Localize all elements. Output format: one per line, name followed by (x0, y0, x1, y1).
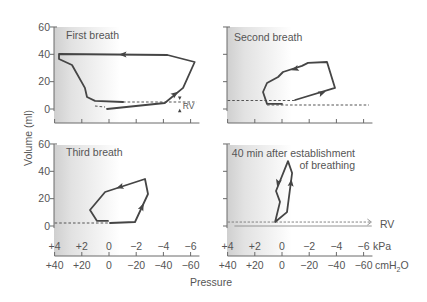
x-tick-label-cmh2o: −40 (154, 259, 172, 271)
panel-first-breath: 0204060RVFirst breath (38, 21, 200, 123)
panel-title-line-1: 40 min after establishment (232, 147, 355, 159)
x-tick-label-kpa: −2 (303, 240, 315, 252)
y-tick-label: 20 (38, 75, 50, 87)
panel-title: Second breath (234, 31, 302, 43)
y-tick-label: 0 (44, 220, 50, 232)
x-tick-label-kpa: 0 (279, 240, 285, 252)
x-tick-label-kpa: −4 (330, 240, 342, 252)
panel-title-line-2: of breathing (300, 159, 356, 171)
panel-third-breath: 0204060+4+40+2+2000−2−20−4−40−6−60Third … (38, 138, 200, 271)
panel-shade (54, 27, 200, 123)
panel-title: Third breath (66, 146, 123, 158)
pressure-volume-figure: 0204060RVFirst breath Second breath 0204… (0, 0, 427, 302)
x-tick-label-cmh2o: −20 (127, 259, 145, 271)
kpa-unit-label: kPa (373, 240, 391, 252)
x-tick-label-cmh2o: −60 (182, 259, 200, 271)
cmh2o-unit-main: cmH (375, 259, 397, 271)
x-tick-label-cmh2o: −40 (327, 259, 345, 271)
x-tick-label-kpa: +2 (76, 240, 88, 252)
x-tick-label-kpa: +4 (49, 240, 61, 252)
x-tick-label-cmh2o: −60 (355, 259, 373, 271)
x-tick-label-cmh2o: −20 (300, 259, 318, 271)
x-tick-label-cmh2o: 0 (279, 259, 285, 271)
y-tick-label: 60 (38, 21, 50, 33)
rv-label: RV (183, 101, 195, 111)
x-tick-label-kpa: −6 (358, 240, 370, 252)
x-tick-label-kpa: −4 (157, 240, 169, 252)
x-tick-label-kpa: 0 (106, 240, 112, 252)
panel-established-breathing: +4+40+2+2000−2−20−4−40−6−60RV40 min afte… (219, 144, 395, 271)
cmh2o-unit-label: cmH2O (375, 259, 409, 273)
y-tick-label: 40 (38, 48, 50, 60)
y-tick-label: 0 (44, 103, 50, 115)
y-tick-label: 60 (38, 138, 50, 150)
x-tick-label-kpa: +2 (249, 240, 261, 252)
x-tick-label-cmh2o: +40 (219, 259, 237, 271)
panel-title: First breath (66, 29, 119, 41)
cmh2o-unit-tail: O (401, 259, 409, 271)
x-tick-label-cmh2o: +20 (246, 259, 264, 271)
x-tick-label-kpa: +4 (222, 240, 234, 252)
x-tick-label-kpa: −2 (130, 240, 142, 252)
y-axis-title: Volume (ml) (22, 110, 34, 166)
x-tick-label-cmh2o: +40 (46, 259, 64, 271)
x-axis-title: Pressure (190, 276, 232, 288)
panel-second-breath: Second breath (223, 27, 372, 123)
x-tick-label-cmh2o: +20 (73, 259, 91, 271)
y-tick-label: 20 (38, 192, 50, 204)
x-tick-label-kpa: −6 (185, 240, 197, 252)
y-tick-label: 40 (38, 165, 50, 177)
rv-label: RV (380, 218, 394, 230)
x-tick-label-cmh2o: 0 (106, 259, 112, 271)
